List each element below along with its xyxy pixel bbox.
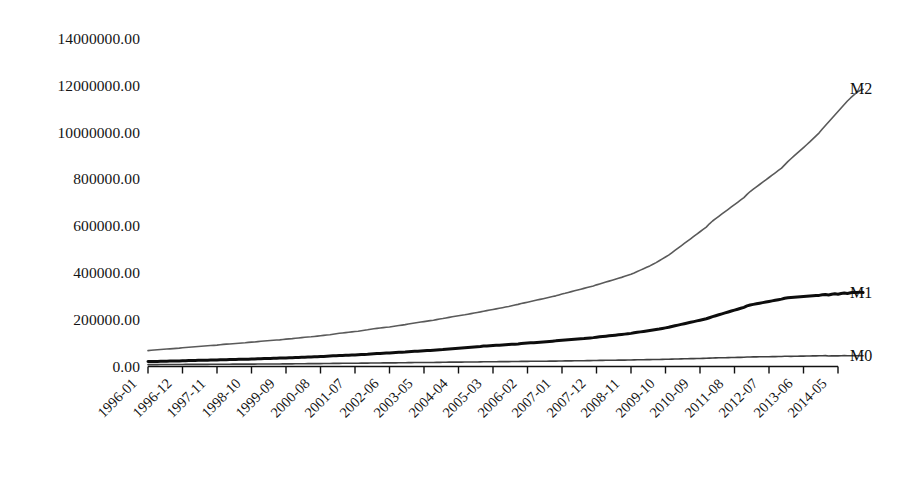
- x-axis: 1996-011996-121997-111998-101999-092000-…: [0, 0, 906, 480]
- series-label-m2: M2: [850, 81, 872, 97]
- money-supply-line-chart: 14000000.0012000000.0010000000.00800000.…: [0, 0, 906, 480]
- series-label-m1: M1: [850, 285, 872, 301]
- series-label-m0: M0: [850, 348, 872, 364]
